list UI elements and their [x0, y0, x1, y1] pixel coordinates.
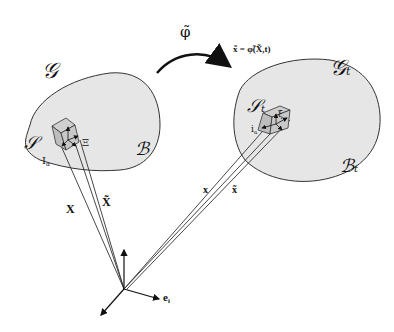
mapping-arrow [157, 54, 228, 73]
diagram-canvas: φ̃ x̃ = φ̃(X̃,t) 𝒢 ℬ 𝒮 Ξ Iα X X̃ 𝒢t ℬt 𝒮… [0, 0, 394, 332]
mapping-symbol: φ̃ [180, 23, 191, 41]
reference-body-label: ℬ [135, 138, 151, 159]
reference-position-tilde-label: X̃ [102, 195, 111, 209]
frame-basis-label: ei [163, 291, 170, 305]
reference-position-label: X [66, 202, 75, 216]
current-director-label: ξ [278, 109, 283, 119]
current-body [234, 59, 380, 181]
mapping-equation: x̃ = φ̃(X̃,t) [233, 44, 271, 54]
current-position-label: x [203, 184, 208, 195]
reference-director-label: Ξ [82, 137, 89, 148]
current-space-label: 𝒢t [330, 55, 351, 80]
reference-space-label: 𝒢 [42, 58, 61, 83]
current-position-tilde-label: x̃ [232, 184, 237, 195]
